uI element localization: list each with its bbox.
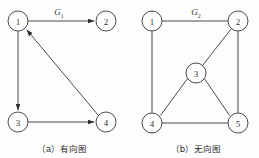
node-a-1: 1: [8, 11, 28, 31]
graph-canvas: 1 2 3 4 G1 （a）有向图: [0, 0, 259, 158]
graph-label-g2: G2: [191, 7, 201, 19]
node-a-4: 4: [96, 112, 116, 132]
node-b-1-label: 1: [150, 17, 155, 27]
graph-label-g1-subscript: 1: [61, 13, 64, 19]
panel-a-directed-graph: 1 2 3 4 G1 （a）有向图: [8, 7, 116, 154]
node-b-5: 5: [228, 113, 248, 133]
node-a-2-label: 2: [104, 17, 109, 27]
graph-figure: 1 2 3 4 G1 （a）有向图: [0, 0, 259, 158]
node-a-3-label: 3: [16, 118, 21, 128]
graph-label-g2-subscript: 2: [198, 13, 201, 19]
graph-label-g1: G1: [54, 7, 64, 19]
node-b-3: 3: [186, 63, 206, 83]
node-b-2-label: 2: [236, 17, 241, 27]
panel-b-undirected-graph: 1 2 3 4 5 G2 （: [142, 7, 248, 154]
node-b-2: 2: [228, 11, 248, 31]
node-a-1-label: 1: [16, 17, 21, 27]
node-b-4-label: 4: [150, 119, 155, 129]
node-b-4: 4: [142, 113, 162, 133]
node-b-5-label: 5: [236, 119, 241, 129]
edge-4-to-1: [27, 30, 99, 116]
panel-b-nodes: 1 2 3 4 5: [142, 11, 248, 133]
node-b-1: 1: [142, 11, 162, 31]
node-a-4-label: 4: [104, 118, 109, 128]
edge-3-5: [204, 79, 229, 116]
node-b-3-label: 3: [194, 69, 199, 79]
panel-a-edges: [18, 21, 98, 122]
edge-3-4: [160, 79, 187, 116]
edge-2-3: [202, 28, 231, 66]
caption-b: （b）无向图: [171, 144, 221, 154]
node-a-3: 3: [8, 112, 28, 132]
caption-a: （a）有向图: [37, 144, 87, 154]
node-a-2: 2: [96, 11, 116, 31]
